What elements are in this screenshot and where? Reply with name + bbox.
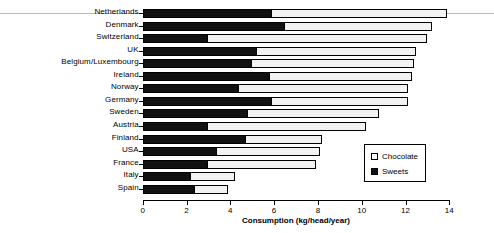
x-axis-tick — [230, 200, 231, 205]
bar-row: Spain — [143, 185, 450, 194]
x-axis-tick — [406, 200, 407, 205]
x-axis-tick — [362, 200, 363, 205]
x-axis-tick — [187, 200, 188, 205]
bar-row: Germany — [143, 97, 450, 106]
bar-row: Finland — [143, 135, 450, 144]
bar-segment-sweets — [143, 135, 246, 144]
x-axis-tick-label: 4 — [228, 206, 232, 215]
bar-row: Sweden — [143, 109, 450, 118]
legend-item-sweets: Sweets — [371, 167, 408, 176]
x-axis-tick — [143, 200, 144, 205]
x-axis-tick-label: 12 — [401, 206, 410, 215]
bar-row: Austria — [143, 122, 450, 131]
x-axis-tick — [449, 200, 450, 205]
filled-square-icon — [371, 168, 378, 175]
category-label: Switzerland — [96, 32, 138, 42]
x-axis-line — [143, 200, 450, 201]
bar-segment-sweets — [143, 34, 209, 43]
category-label: Germany — [105, 95, 139, 105]
category-label: Spain — [118, 183, 139, 193]
category-label: Netherlands — [94, 7, 138, 17]
bar-row: Ireland — [143, 72, 450, 81]
legend-item-chocolate: Chocolate — [371, 152, 418, 161]
category-label: Sweden — [109, 107, 139, 117]
bar-segment-sweets — [143, 160, 209, 169]
bar-segment-sweets — [143, 47, 257, 56]
bar-segment-sweets — [143, 185, 196, 194]
x-axis-tick-label: 0 — [140, 206, 144, 215]
chart-legend: Chocolate Sweets — [364, 144, 426, 182]
x-axis-tick-label: 2 — [184, 206, 188, 215]
bar-segment-sweets — [143, 147, 217, 156]
bar-row: Denmark — [143, 22, 450, 31]
bar-row: Netherlands — [143, 9, 450, 18]
bar-segment-sweets — [143, 22, 285, 31]
category-label: Belgium/Luxembourg — [61, 57, 138, 67]
bar-row: Belgium/Luxembourg — [143, 59, 450, 68]
category-label: Italy — [124, 170, 139, 180]
open-square-icon — [371, 153, 378, 160]
bar-segment-sweets — [143, 122, 209, 131]
category-label: Denmark — [106, 20, 139, 30]
bar-segment-sweets — [143, 59, 253, 68]
category-label: France — [113, 158, 139, 168]
category-label: UK — [127, 45, 138, 55]
bar-segment-sweets — [143, 97, 272, 106]
x-axis-tick — [274, 200, 275, 205]
bar-row: Switzerland — [143, 34, 450, 43]
x-axis-tick-label: 8 — [316, 206, 320, 215]
category-label: Norway — [111, 82, 139, 92]
x-axis-tick — [318, 200, 319, 205]
category-label: USA — [122, 145, 139, 155]
bar-segment-sweets — [143, 72, 270, 81]
x-axis-tick-label: 6 — [272, 206, 276, 215]
category-label: Finland — [112, 133, 139, 143]
bar-segment-sweets — [143, 9, 272, 18]
bar-row: Norway — [143, 84, 450, 93]
bar-row: UK — [143, 47, 450, 56]
x-axis-tick-label: 14 — [445, 206, 454, 215]
legend-label-sweets: Sweets — [382, 167, 408, 176]
legend-label-chocolate: Chocolate — [382, 152, 418, 161]
bar-segment-sweets — [143, 172, 191, 181]
bar-segment-sweets — [143, 109, 248, 118]
x-axis-title: Consumption (kg/head/year) — [143, 216, 450, 225]
category-label: Austria — [113, 120, 139, 130]
bar-segment-sweets — [143, 84, 239, 93]
consumption-bar-chart: NetherlandsDenmarkSwitzerlandUKBelgium/L… — [0, 0, 494, 233]
x-axis-tick-label: 10 — [357, 206, 366, 215]
category-label: Ireland — [114, 70, 139, 80]
